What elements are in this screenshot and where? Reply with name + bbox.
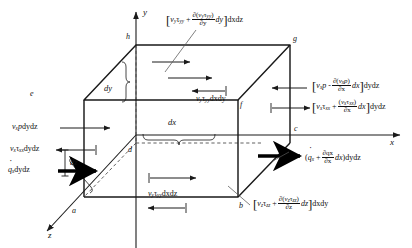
leader-lines <box>165 30 289 205</box>
vertex-b: b <box>239 202 243 210</box>
vertex-c: c <box>294 125 298 133</box>
dimension-dy: dy <box>104 84 112 93</box>
dimension-dx: dx <box>168 118 176 127</box>
diagram-artwork <box>0 0 412 248</box>
axis-label-y: y <box>143 8 147 17</box>
label-left-heat-flux: qxdydz <box>8 166 30 174</box>
dimension-dz: dz <box>70 158 78 167</box>
axis-label-x: x <box>390 138 394 147</box>
vertex-h: h <box>126 33 130 41</box>
partial-fraction: ∂(vxp)∂x <box>332 78 351 93</box>
label-right-shear-flux: [vxτxx +(vxτxx)∂xdx]dydz <box>312 99 386 114</box>
z-axis <box>47 135 136 231</box>
partial-fraction: ∂(vyτyy)∂y <box>192 12 215 27</box>
dim-dy <box>122 62 130 102</box>
vertex-f: f <box>240 101 242 109</box>
cube-edges <box>84 45 290 197</box>
vertex-d: d <box>128 146 132 154</box>
vertex-a: a <box>72 207 76 215</box>
vertex-g: g <box>293 35 297 43</box>
partial-fraction: ∂qx∂x <box>322 150 334 165</box>
axis-label-z: z <box>48 231 52 240</box>
heat-flux-arrows <box>58 156 300 171</box>
label-front-shear-flux: [vzτzz +∂(vzτzz)∂zdz]dxdy <box>253 196 328 211</box>
label-bottom-face-flux: vyτyydxdz <box>148 190 177 198</box>
partial-fraction: ∂(vzτzz)∂z <box>278 196 300 211</box>
label-left-shear-flux: vxτxxdydz <box>10 145 39 153</box>
label-left-pressure-flux: vxpdydz <box>12 123 37 131</box>
q-dot-symbol: q <box>308 153 312 162</box>
q-dot-symbol: q <box>8 165 12 174</box>
label-right-pressure-flux: [vxp -∂(vxp)∂xdx]dydz <box>312 78 379 93</box>
label-top-face-flux: [vyτyy +∂(vyτyy)∂ydy]dxdz <box>166 12 243 27</box>
label-right-heat-flux: (qx +∂qx∂xdx)dydz <box>305 150 361 165</box>
figure-canvas: y x z h g e f c d a b dy dx dz [vyτyy +∂… <box>0 0 412 248</box>
label-inner-top-flux: vyτyydxdy <box>196 95 226 103</box>
partial-fraction: (vxτxx)∂x <box>338 99 358 114</box>
vertex-e: e <box>30 90 34 98</box>
